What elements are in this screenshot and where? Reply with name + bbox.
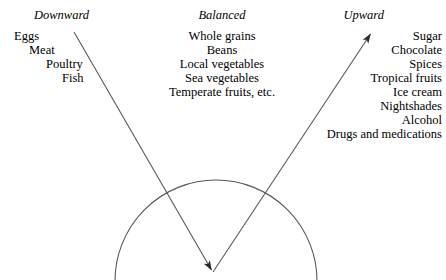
column-items-balanced: Whole grains Beans Local vegetables Sea … bbox=[147, 29, 297, 99]
list-item: Spices bbox=[296, 57, 444, 71]
list-item: Fish bbox=[62, 71, 130, 85]
list-item: Ice cream bbox=[296, 85, 444, 99]
list-item: Whole grains bbox=[147, 29, 297, 43]
column-items-downward: Eggs Meat Poultry Fish bbox=[0, 29, 130, 85]
column-heading-downward: Downward bbox=[34, 8, 130, 22]
list-item: Temperate fruits, etc. bbox=[147, 85, 297, 99]
diagram-canvas: Downward Eggs Meat Poultry Fish Balanced… bbox=[0, 0, 446, 280]
list-item: Poultry bbox=[46, 57, 130, 71]
list-item: Meat bbox=[29, 43, 130, 57]
column-heading-balanced: Balanced bbox=[147, 8, 297, 22]
column-upward: Upward Sugar Chocolate Spices Tropical f… bbox=[296, 8, 444, 141]
column-downward: Downward Eggs Meat Poultry Fish bbox=[0, 8, 130, 85]
list-item: Nightshades bbox=[296, 99, 444, 113]
list-item: Sugar bbox=[296, 29, 444, 43]
list-item: Beans bbox=[147, 43, 297, 57]
column-heading-upward: Upward bbox=[296, 8, 384, 22]
list-item: Chocolate bbox=[296, 43, 444, 57]
column-balanced: Balanced Whole grains Beans Local vegeta… bbox=[147, 8, 297, 99]
list-item: Eggs bbox=[14, 29, 130, 43]
list-item: Sea vegetables bbox=[147, 71, 297, 85]
list-item: Alcohol bbox=[296, 113, 444, 127]
list-item: Tropical fruits bbox=[296, 71, 444, 85]
semicircular-arc bbox=[115, 180, 317, 280]
list-item: Local vegetables bbox=[147, 57, 297, 71]
list-item: Drugs and medications bbox=[296, 127, 444, 141]
column-items-upward: Sugar Chocolate Spices Tropical fruits I… bbox=[296, 29, 444, 141]
